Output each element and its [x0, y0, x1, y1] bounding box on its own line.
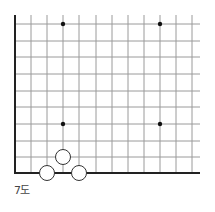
white-stone [72, 166, 87, 181]
star-point-icon [61, 22, 65, 26]
diagram-caption: 7도 [14, 181, 30, 197]
star-point-icon [158, 122, 162, 126]
go-board [0, 0, 215, 212]
white-stone [56, 150, 71, 165]
star-point-icon [61, 122, 65, 126]
white-stone [40, 166, 55, 181]
star-point-icon [158, 22, 162, 26]
